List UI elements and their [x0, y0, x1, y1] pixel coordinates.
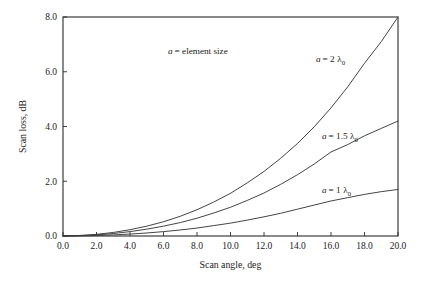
- curve-label-equals: = 1: [329, 185, 341, 195]
- x-tick-label: 14.0: [289, 241, 306, 251]
- y-tick-label: 6.0: [45, 67, 57, 77]
- x-tick-label: 4.0: [124, 241, 136, 251]
- annotation-group: a= element size: [168, 46, 228, 56]
- y-axis-title: Scan loss, dB: [17, 100, 28, 154]
- x-tick-label: 10.0: [222, 241, 239, 251]
- scan-loss-plot: 0.02.04.06.08.010.012.014.016.018.020.00…: [0, 0, 426, 281]
- curve-label-subscript: 0: [342, 59, 346, 66]
- curve-label-subscript: 0: [348, 190, 352, 197]
- curve-label-equals: = 1.5: [329, 131, 348, 141]
- x-tick-label: 16.0: [323, 241, 340, 251]
- x-tick-label: 6.0: [158, 241, 170, 251]
- x-tick-label: 20.0: [390, 241, 407, 251]
- curve-label-equals: = 2: [323, 54, 335, 64]
- x-tick-label: 12.0: [256, 241, 273, 251]
- annotation-symbol: a: [168, 46, 173, 56]
- element-size-annotation: a= element size: [168, 46, 228, 56]
- curve-label-symbol: a: [316, 54, 321, 64]
- y-tick-label: 8.0: [45, 12, 57, 22]
- curve-label-symbol: a: [322, 185, 327, 195]
- curve-label-subscript: 0: [355, 136, 359, 143]
- chart-figure: 0.02.04.06.08.010.012.014.016.018.020.00…: [0, 0, 426, 281]
- x-tick-label: 0.0: [57, 241, 69, 251]
- x-tick-label: 2.0: [91, 241, 103, 251]
- y-tick-label: 2.0: [45, 177, 57, 187]
- plot-background: [0, 0, 426, 281]
- curve-label-symbol: a: [322, 131, 327, 141]
- x-tick-label: 8.0: [191, 241, 203, 251]
- x-axis-title: Scan angle, deg: [200, 259, 262, 270]
- y-tick-label: 4.0: [45, 122, 57, 132]
- annotation-text: = element size: [175, 46, 228, 56]
- x-tick-label: 18.0: [356, 241, 373, 251]
- y-tick-label: 0.0: [45, 231, 57, 241]
